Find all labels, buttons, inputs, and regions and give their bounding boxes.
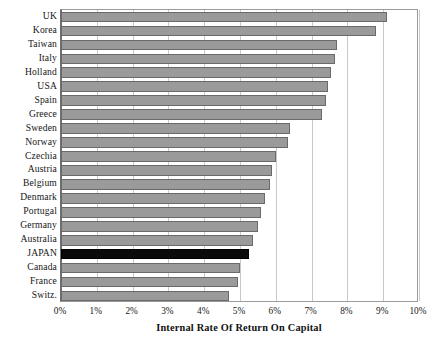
category-label-norway: Norway <box>0 135 57 149</box>
x-tick-label-7pct: 7% <box>291 304 331 318</box>
bar-row <box>61 275 417 289</box>
category-label-spain: Spain <box>0 93 57 107</box>
bar-germany[interactable] <box>61 221 258 232</box>
bar-canada[interactable] <box>61 263 240 274</box>
bar-row <box>61 261 417 275</box>
category-label-australia: Australia <box>0 232 57 246</box>
x-tick-label-1pct: 1% <box>76 304 116 318</box>
bar-greece[interactable] <box>61 109 322 120</box>
bar-row <box>61 94 417 108</box>
bar-row <box>61 24 417 38</box>
category-label-denmark: Denmark <box>0 190 57 204</box>
x-tick-label-4pct: 4% <box>183 304 223 318</box>
category-label-taiwan: Taiwan <box>0 37 57 51</box>
bar-portugal[interactable] <box>61 207 261 218</box>
bar-uk[interactable] <box>61 12 387 23</box>
bar-row <box>61 10 417 24</box>
category-label-italy: Italy <box>0 51 57 65</box>
bars-layer <box>61 10 417 301</box>
category-label-germany: Germany <box>0 218 57 232</box>
bar-chart: UKKoreaTaiwanItalyHollandUSASpainGreeceS… <box>0 0 433 348</box>
bar-france[interactable] <box>61 277 238 288</box>
bar-spain[interactable] <box>61 95 326 106</box>
x-tick-label-6pct: 6% <box>255 304 295 318</box>
x-axis-title: Internal Rate Of Return On Capital <box>60 322 418 333</box>
bar-czechia[interactable] <box>61 151 276 162</box>
x-tick-label-2pct: 2% <box>112 304 152 318</box>
x-tick-label-0pct: 0% <box>40 304 80 318</box>
category-label-greece: Greece <box>0 107 57 121</box>
bar-row <box>61 52 417 66</box>
category-label-canada: Canada <box>0 260 57 274</box>
bar-row <box>61 191 417 205</box>
bar-row <box>61 122 417 136</box>
x-tick-label-10pct: 10% <box>398 304 433 318</box>
bar-switz[interactable] <box>61 291 229 302</box>
x-tick-label-5pct: 5% <box>219 304 259 318</box>
category-label-usa: USA <box>0 79 57 93</box>
bar-row <box>61 163 417 177</box>
bar-row <box>61 66 417 80</box>
category-label-switz: Switz. <box>0 288 57 302</box>
bar-taiwan[interactable] <box>61 40 337 51</box>
bar-australia[interactable] <box>61 235 253 246</box>
category-label-holland: Holland <box>0 65 57 79</box>
bar-row <box>61 136 417 150</box>
bar-row <box>61 38 417 52</box>
category-label-uk: UK <box>0 9 57 23</box>
value-axis-labels: 0%1%2%3%4%5%6%7%8%9%10% <box>60 304 418 320</box>
category-axis-labels: UKKoreaTaiwanItalyHollandUSASpainGreeceS… <box>0 9 57 302</box>
category-label-czechia: Czechia <box>0 149 57 163</box>
x-tick-label-3pct: 3% <box>147 304 187 318</box>
bar-row <box>61 247 417 261</box>
x-tick-label-9pct: 9% <box>362 304 402 318</box>
category-label-sweden: Sweden <box>0 121 57 135</box>
bar-row <box>61 108 417 122</box>
category-label-austria: Austria <box>0 162 57 176</box>
gridline-10% <box>419 10 420 301</box>
plot-area <box>60 9 418 302</box>
bar-row <box>61 233 417 247</box>
bar-sweden[interactable] <box>61 123 290 134</box>
bar-usa[interactable] <box>61 81 328 92</box>
category-label-portugal: Portugal <box>0 204 57 218</box>
bar-japan[interactable] <box>61 249 249 260</box>
category-label-japan: JAPAN <box>0 246 57 260</box>
bar-row <box>61 80 417 94</box>
x-tick-label-8pct: 8% <box>326 304 366 318</box>
bar-row <box>61 205 417 219</box>
bar-belgium[interactable] <box>61 179 270 190</box>
bar-row <box>61 219 417 233</box>
bar-row <box>61 177 417 191</box>
bar-holland[interactable] <box>61 67 331 78</box>
bar-row <box>61 289 417 303</box>
bar-italy[interactable] <box>61 54 335 65</box>
bar-austria[interactable] <box>61 165 272 176</box>
category-label-france: France <box>0 274 57 288</box>
bar-norway[interactable] <box>61 137 288 148</box>
category-label-belgium: Belgium <box>0 176 57 190</box>
bar-korea[interactable] <box>61 26 376 37</box>
category-label-korea: Korea <box>0 23 57 37</box>
bar-row <box>61 150 417 164</box>
bar-denmark[interactable] <box>61 193 265 204</box>
